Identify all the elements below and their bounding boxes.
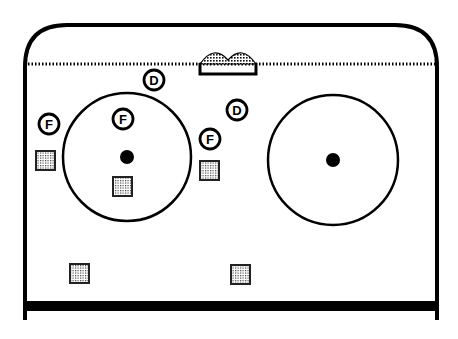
blue-line	[24, 301, 438, 311]
player-label: F	[45, 117, 53, 132]
hockey-rink-diagram: DDFFF	[0, 0, 458, 339]
opponent-square-icon	[200, 161, 219, 180]
opponent-square-icon	[231, 265, 250, 284]
player-label: D	[149, 73, 158, 88]
player-label: F	[206, 132, 214, 147]
faceoff-dot-left	[120, 150, 134, 164]
faceoff-dot-right	[326, 153, 340, 167]
player-marker-defense: D	[144, 70, 164, 90]
player-marker-forward: F	[39, 114, 59, 134]
opponent-square-icon	[113, 177, 132, 196]
player-label: D	[232, 103, 241, 118]
player-marker-forward: F	[113, 109, 133, 129]
opponent-square-icon	[36, 151, 55, 170]
opponent-markers	[36, 151, 250, 284]
goal-net-mesh	[200, 53, 256, 64]
player-label: F	[119, 112, 127, 127]
opponent-square-icon	[70, 264, 89, 283]
goal-net-icon	[200, 53, 256, 74]
player-marker-forward: F	[200, 129, 220, 149]
player-markers: DDFFF	[39, 70, 247, 149]
player-marker-defense: D	[227, 100, 247, 120]
